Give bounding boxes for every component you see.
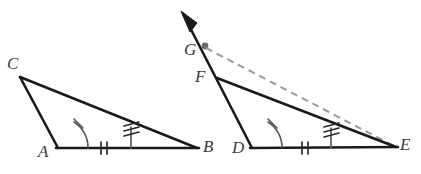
vertex-label-G: G — [184, 41, 196, 58]
ray-line — [183, 14, 252, 148]
dashed-line-GE — [206, 48, 396, 147]
vertex-label-D: D — [232, 139, 244, 156]
ray-GF-extended — [181, 11, 252, 148]
vertex-label-C: C — [7, 55, 18, 72]
angle-arc-D — [268, 119, 282, 148]
vertex-label-A: A — [38, 143, 48, 160]
triangle-DEF — [217, 78, 398, 148]
ray-arrowhead — [181, 11, 197, 32]
angle-arc-A — [74, 119, 88, 148]
vertex-label-B: B — [203, 138, 213, 155]
segment-DE — [250, 147, 398, 148]
segment-FE — [217, 78, 396, 147]
triangle-ABC — [20, 77, 199, 148]
vertex-label-F: F — [195, 68, 205, 85]
segment-CB — [20, 77, 197, 148]
geometry-figure: C A B G F D E — [0, 0, 421, 174]
segment-CA — [20, 77, 58, 148]
vertex-label-E: E — [400, 136, 410, 153]
